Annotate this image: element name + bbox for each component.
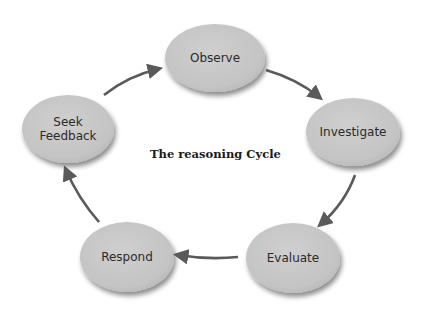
diagram-title: The reasoning Cycle — [150, 147, 274, 161]
respond-label: Respond — [80, 243, 174, 271]
arrow-respond-to-seek-feedback — [66, 170, 99, 222]
arrow-investigate-to-evaluate — [321, 175, 355, 224]
seek-feedback-label: Seek Feedback — [22, 113, 114, 145]
arrow-observe-to-investigate — [266, 70, 319, 97]
investigate-label: Investigate — [306, 118, 400, 146]
seek-feedback-label-line1: Seek — [53, 115, 82, 129]
seek-feedback-label-line2: Feedback — [39, 129, 96, 143]
evaluate-label: Evaluate — [246, 244, 340, 272]
observe-label: Observe — [165, 44, 265, 72]
arrow-evaluate-to-respond — [178, 255, 238, 258]
arrow-seek-feedback-to-observe — [104, 69, 158, 95]
